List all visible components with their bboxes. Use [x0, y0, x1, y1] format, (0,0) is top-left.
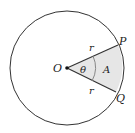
label-area-a: A — [102, 64, 110, 75]
label-center-o: O — [53, 62, 62, 75]
label-radius-lower: r — [89, 85, 95, 96]
sector-shaded — [67, 45, 122, 92]
center-point — [65, 66, 69, 70]
diagram-canvas: O P Q r r θ A — [0, 0, 135, 133]
sector-diagram: O P Q r r θ A — [0, 0, 135, 133]
label-radius-upper: r — [89, 42, 95, 53]
label-point-q: Q — [116, 92, 125, 105]
label-angle-theta: θ — [80, 64, 86, 75]
label-point-p: P — [118, 35, 127, 48]
